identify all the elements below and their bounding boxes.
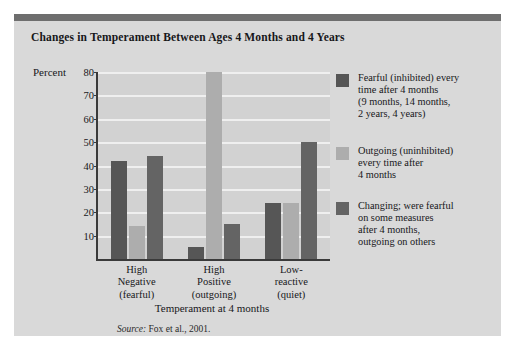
plot-region: 1020304050607080 HighNegative(fearful)Hi… [96, 72, 330, 261]
y-tick-mark-10 [94, 236, 98, 237]
y-tick-mark-30 [94, 189, 98, 190]
legend-label-line: on some measures [358, 212, 496, 224]
y-tick-label-30: 30 [84, 183, 95, 194]
x-axis-title: Temperament at 4 months [96, 302, 328, 314]
y-tick-mark-70 [94, 95, 98, 96]
x-category-label-line: High [118, 264, 156, 276]
bar [206, 72, 222, 259]
bar [224, 224, 240, 259]
x-category-label-line: Low- [275, 264, 308, 276]
x-category-label: Low-reactive(quiet) [275, 264, 308, 301]
legend-label-line: (9 months, 14 months, [358, 96, 496, 108]
y-tick-label-70: 70 [84, 90, 95, 101]
y-tick-label-50: 50 [84, 137, 95, 148]
legend-label-line: 2 years, 4 years) [358, 108, 496, 120]
y-tick-label-60: 60 [84, 113, 95, 124]
x-category-label: HighNegative(fearful) [118, 264, 156, 301]
bar [301, 142, 317, 259]
y-tick-mark-60 [94, 119, 98, 120]
legend-label-line: 4 months [358, 169, 496, 181]
source-note: Source: Fox et al., 2001. [117, 324, 210, 334]
legend-swatch [336, 74, 349, 87]
legend-label: Changing; were fearfulon some measuresaf… [358, 200, 496, 248]
bar [283, 203, 299, 259]
y-tick-label-20: 20 [84, 207, 95, 218]
legend-label-line: Changing; were fearful [358, 200, 496, 212]
bar [265, 203, 281, 259]
source-text: Fox et al., 2001. [146, 324, 210, 334]
source-prefix: Source: [117, 324, 146, 334]
x-category-label-line: (fearful) [118, 289, 156, 301]
legend-label-line: Fearful (inhibited) every [358, 72, 496, 84]
y-tick-mark-40 [94, 166, 98, 167]
y-tick-label-40: 40 [84, 160, 95, 171]
bar [111, 161, 127, 259]
legend-label-line: time after 4 months [358, 84, 496, 96]
legend-swatch [336, 202, 349, 215]
legend-label-line: every time after [358, 157, 496, 169]
figure-panel: Changes in Temperament Between Ages 4 Mo… [14, 14, 501, 336]
y-axis-title: Percent [33, 66, 66, 78]
chart-area: Percent 1020304050607080 HighNegative(fe… [14, 14, 501, 336]
x-category-label-line: Positive [192, 276, 236, 288]
y-tick-mark-20 [94, 212, 98, 213]
y-tick-mark-50 [94, 142, 98, 143]
legend-swatch [336, 147, 349, 160]
x-category-label-line: reactive [275, 276, 308, 288]
legend-label: Outgoing (uninhibited)every time after4 … [358, 145, 496, 181]
y-tick-mark-80 [94, 72, 98, 73]
x-category-label-line: (outgoing) [192, 289, 236, 301]
legend-label-line: Outgoing (uninhibited) [358, 145, 496, 157]
x-category-label-line: (quiet) [275, 289, 308, 301]
y-tick-label-80: 80 [84, 67, 95, 78]
bar [129, 226, 145, 259]
y-tick-label-10: 10 [84, 230, 95, 241]
legend-label: Fearful (inhibited) everytime after 4 mo… [358, 72, 496, 120]
legend-label-line: outgoing on others [358, 236, 496, 248]
x-category-label-line: High [192, 264, 236, 276]
legend-label-line: after 4 months, [358, 224, 496, 236]
bar [188, 247, 204, 259]
x-category-label: HighPositive(outgoing) [192, 264, 236, 301]
x-category-label-line: Negative [118, 276, 156, 288]
bar [147, 156, 163, 259]
